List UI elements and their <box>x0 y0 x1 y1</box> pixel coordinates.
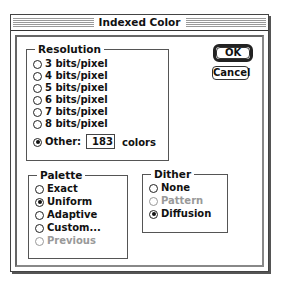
dialog-content: Resolution 3 bits/pixel 4 bits/pixel 5 b… <box>15 35 264 267</box>
cancel-button[interactable]: Cancel <box>212 66 249 80</box>
radio-6-bits[interactable]: 6 bits/pixel <box>33 94 108 106</box>
dither-label: Dither <box>151 167 194 181</box>
radio-8-bits[interactable]: 8 bits/pixel <box>33 118 108 130</box>
radio-button-icon <box>149 197 158 206</box>
radio-4-bits[interactable]: 4 bits/pixel <box>33 70 108 82</box>
radio-dither-pattern: Pattern <box>149 195 203 207</box>
radio-button-selected-icon <box>149 210 158 219</box>
radio-label: 8 bits/pixel <box>45 118 108 130</box>
radio-button-icon <box>35 211 44 220</box>
other-colors-input[interactable] <box>86 134 115 149</box>
radio-palette-adaptive[interactable]: Adaptive <box>35 209 97 221</box>
radio-other[interactable]: Other: <box>33 136 81 148</box>
radio-label: Pattern <box>161 195 203 207</box>
radio-label: 4 bits/pixel <box>45 70 108 82</box>
radio-5-bits[interactable]: 5 bits/pixel <box>33 82 108 94</box>
radio-dither-none[interactable]: None <box>149 182 190 194</box>
dialog-title: Indexed Color <box>94 16 186 29</box>
radio-palette-uniform[interactable]: Uniform <box>35 196 92 208</box>
radio-button-selected-icon <box>33 138 42 147</box>
colors-suffix-label: colors <box>122 137 156 149</box>
radio-button-icon <box>33 84 42 93</box>
radio-label: Diffusion <box>161 208 211 220</box>
radio-button-icon <box>35 185 44 194</box>
indexed-color-dialog: Indexed Color Resolution 3 bits/pixel 4 … <box>10 14 269 272</box>
palette-group: Palette Exact Uniform Adaptive Custom...… <box>28 175 128 259</box>
ok-button[interactable]: OK <box>216 47 250 59</box>
radio-label: 5 bits/pixel <box>45 82 108 94</box>
radio-3-bits[interactable]: 3 bits/pixel <box>33 58 108 70</box>
radio-button-icon <box>33 120 42 129</box>
radio-label: 7 bits/pixel <box>45 106 108 118</box>
radio-dither-diffusion[interactable]: Diffusion <box>149 208 211 220</box>
radio-label: Previous <box>47 235 96 247</box>
radio-label: Exact <box>47 183 78 195</box>
radio-button-icon <box>33 60 42 69</box>
title-bar[interactable]: Indexed Color <box>11 15 268 31</box>
radio-palette-exact[interactable]: Exact <box>35 183 78 195</box>
radio-button-icon <box>35 237 44 246</box>
radio-button-icon <box>33 108 42 117</box>
radio-palette-previous: Previous <box>35 235 96 247</box>
radio-label: Other: <box>45 136 81 148</box>
radio-button-icon <box>149 184 158 193</box>
radio-label: None <box>161 182 190 194</box>
radio-button-selected-icon <box>35 198 44 207</box>
dither-group: Dither None Pattern Diffusion <box>142 174 228 233</box>
radio-button-icon <box>33 72 42 81</box>
palette-label: Palette <box>37 168 85 182</box>
radio-label: 3 bits/pixel <box>45 58 108 70</box>
radio-label: Adaptive <box>47 209 97 221</box>
radio-label: 6 bits/pixel <box>45 94 108 106</box>
resolution-group: Resolution 3 bits/pixel 4 bits/pixel 5 b… <box>26 49 169 161</box>
radio-7-bits[interactable]: 7 bits/pixel <box>33 106 108 118</box>
resolution-label: Resolution <box>35 42 104 56</box>
radio-button-icon <box>33 96 42 105</box>
radio-label: Uniform <box>47 196 92 208</box>
radio-palette-custom[interactable]: Custom... <box>35 222 101 234</box>
radio-button-icon <box>35 224 44 233</box>
radio-label: Custom... <box>47 222 101 234</box>
